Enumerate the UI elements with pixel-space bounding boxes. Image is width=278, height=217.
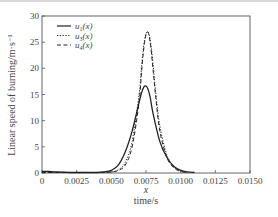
series-lines [42,32,195,173]
legend-label: u4(x) [75,40,93,51]
y-axis-label: Linear speed of burning/m·s⁻¹ [6,34,17,156]
y-tick-label: 20 [30,63,40,73]
x-tick-label: 0.0100 [168,176,193,186]
y-tick-label: 5 [35,142,40,152]
x-axis-label: time/s [134,195,159,206]
y-tick-label: 15 [30,90,40,100]
series-u1-line [42,86,195,173]
x-tick-label: 0 [40,176,45,186]
series-u3-line [42,32,188,173]
line-chart: 051015202530 00.00250.00500.00750.01000.… [0,0,278,217]
y-tick-label: 25 [30,37,40,47]
y-tick-label: 30 [30,11,40,21]
y-tick-label: 10 [30,116,40,126]
x-tick-label: 0.0025 [64,176,89,186]
x-axis-variable: x [143,184,149,195]
y-axis-ticks: 051015202530 [30,11,45,178]
x-tick-label: 0.0150 [238,176,263,186]
x-tick-label: 0.0125 [203,176,228,186]
legend: u1(x)u3(x)u4(x) [57,21,93,51]
x-tick-label: 0.0050 [99,176,124,186]
plot-frame [42,16,250,173]
plot-border [42,16,250,173]
y-tick-label: 0 [35,168,40,178]
